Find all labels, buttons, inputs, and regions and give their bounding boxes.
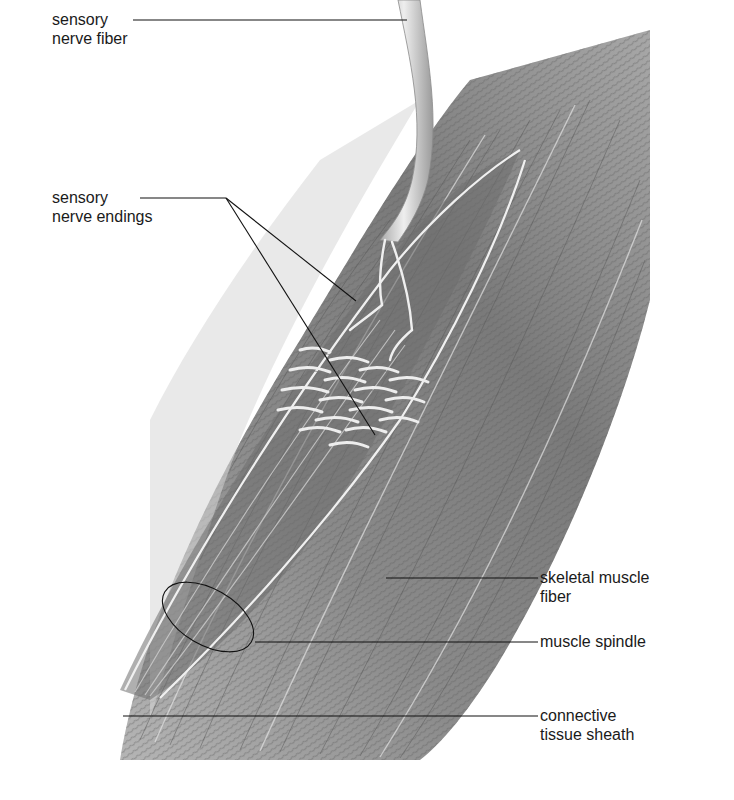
label-line: sensory: [52, 11, 108, 28]
label-muscle-spindle: muscle spindle: [540, 632, 646, 651]
label-line: skeletal muscle: [540, 569, 649, 586]
label-line: muscle spindle: [540, 633, 646, 650]
label-line: nerve fiber: [52, 29, 128, 48]
label-line: sensory: [52, 189, 108, 206]
label-sensory-nerve-endings: sensory nerve endings: [52, 188, 153, 226]
label-skeletal-muscle-fiber: skeletal muscle fiber: [540, 568, 649, 606]
label-line: connective: [540, 707, 617, 724]
label-line: tissue sheath: [540, 725, 634, 744]
label-sensory-nerve-fiber: sensory nerve fiber: [52, 10, 128, 48]
label-line: nerve endings: [52, 207, 153, 226]
label-line: fiber: [540, 587, 649, 606]
label-connective-tissue-sheath: connective tissue sheath: [540, 706, 634, 744]
muscle-spindle-illustration: [0, 0, 734, 800]
